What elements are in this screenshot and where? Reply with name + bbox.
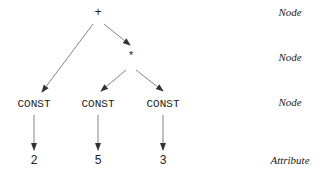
level-label-1: Node <box>278 6 301 18</box>
node-const-2: CONST <box>81 98 114 110</box>
attr-3: 3 <box>159 154 166 168</box>
attr-1: 2 <box>30 154 37 168</box>
ast-diagram: + * CONST CONST CONST 2 5 3 Node Node No… <box>0 0 322 182</box>
attr-2: 5 <box>94 154 101 168</box>
level-label-3: Node <box>278 96 301 108</box>
node-plus: + <box>94 6 101 20</box>
edge-plus-times <box>104 24 130 45</box>
edge-plus-const1 <box>42 24 93 92</box>
level-label-2: Node <box>278 51 301 63</box>
node-times: * <box>128 50 135 62</box>
node-const-1: CONST <box>17 98 50 110</box>
edge-times-const3 <box>136 70 163 91</box>
node-const-3: CONST <box>146 98 179 110</box>
edge-times-const2 <box>101 70 126 91</box>
level-label-4: Attribute <box>270 154 309 166</box>
